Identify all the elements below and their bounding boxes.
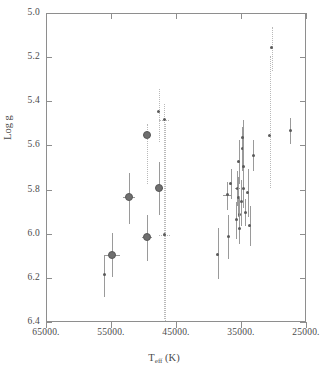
data-point bbox=[216, 253, 219, 256]
y-axis-tick-label: 5.2 bbox=[12, 51, 40, 61]
data-point bbox=[227, 235, 230, 238]
y-axis-tick-label: 5.6 bbox=[12, 139, 40, 149]
data-point bbox=[242, 165, 245, 168]
error-bar-vertical bbox=[159, 89, 160, 142]
data-point bbox=[238, 227, 241, 230]
y-axis-tick-label: 6.4 bbox=[12, 316, 40, 326]
data-point bbox=[268, 134, 271, 137]
y-axis-title: Log g bbox=[2, 115, 13, 140]
x-axis-tick-label: 45000. bbox=[150, 327, 202, 337]
error-bar-vertical bbox=[165, 124, 166, 321]
x-axis-tick-label: 35000. bbox=[215, 327, 267, 337]
error-bar-vertical bbox=[270, 56, 271, 188]
x-axis-title: Teff (K) bbox=[0, 352, 328, 363]
data-point bbox=[242, 187, 245, 190]
data-point bbox=[103, 273, 106, 276]
data-point bbox=[163, 118, 166, 121]
data-point bbox=[246, 191, 249, 194]
plot-frame bbox=[46, 13, 306, 322]
data-point bbox=[235, 218, 238, 221]
y-axis-tick-label: 5.8 bbox=[12, 184, 40, 194]
data-point bbox=[143, 233, 151, 241]
data-point bbox=[157, 110, 160, 113]
y-axis-tick-label: 5.0 bbox=[12, 7, 40, 17]
x-axis-title-unit: (K) bbox=[165, 352, 180, 363]
data-point bbox=[108, 251, 116, 259]
data-point bbox=[155, 184, 163, 192]
data-points-layer bbox=[47, 14, 305, 321]
x-axis-tick-label: 55000. bbox=[85, 327, 137, 337]
y-axis-tick-label: 6.2 bbox=[12, 272, 40, 282]
data-point bbox=[125, 193, 133, 201]
data-point bbox=[241, 136, 244, 139]
data-point bbox=[163, 233, 166, 236]
data-point bbox=[248, 224, 251, 227]
x-axis-tick-label: 65000. bbox=[20, 327, 72, 337]
error-bar-vertical bbox=[227, 182, 228, 211]
x-axis-tick-label: 25000. bbox=[280, 327, 328, 337]
data-point bbox=[143, 131, 151, 139]
x-axis-tick-top bbox=[306, 13, 307, 19]
data-point bbox=[252, 154, 255, 157]
y-axis-tick-label: 5.4 bbox=[12, 95, 40, 105]
error-bar-vertical bbox=[272, 27, 273, 71]
y-axis-tick-label: 6.0 bbox=[12, 228, 40, 238]
scatter-chart-figure: Log g Teff (K) 5.05.25.45.65.86.06.26.46… bbox=[0, 0, 328, 376]
x-axis-title-main: T bbox=[148, 352, 154, 363]
x-axis-title-subscript: eff bbox=[155, 357, 163, 365]
data-point bbox=[237, 160, 240, 163]
data-point bbox=[270, 46, 273, 49]
data-point bbox=[244, 211, 247, 214]
